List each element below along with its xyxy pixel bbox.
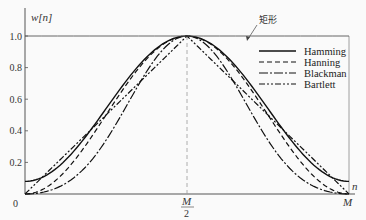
origin-label: 0 — [13, 198, 18, 209]
y-tick-label: 0.8 — [10, 62, 23, 73]
y-axis-label: w[n] — [31, 11, 52, 23]
legend-label-hanning: Hanning — [304, 57, 341, 68]
legend: Hamming Hanning Blackman Bartlett — [259, 46, 347, 90]
m-half-denominator: 2 — [184, 208, 189, 219]
y-tick-label: 0.4 — [10, 125, 23, 136]
y-tick-label: 0.6 — [10, 94, 23, 105]
m-end-label: M — [342, 196, 353, 208]
y-tick-label: 0.2 — [10, 157, 23, 168]
window-functions-chart: 0.20.40.60.81.0 w[n] n 0 M 2 M 矩形 Hammin… — [0, 0, 366, 220]
x-axis-label: n — [352, 180, 358, 192]
m-half-numerator: M — [181, 195, 192, 207]
legend-label-bartlett: Bartlett — [304, 79, 336, 90]
legend-label-blackman: Blackman — [304, 68, 347, 79]
y-tick-label: 1.0 — [10, 31, 23, 42]
rectangular-annotation: 矩形 — [259, 14, 277, 25]
legend-label-hamming: Hamming — [304, 46, 347, 57]
